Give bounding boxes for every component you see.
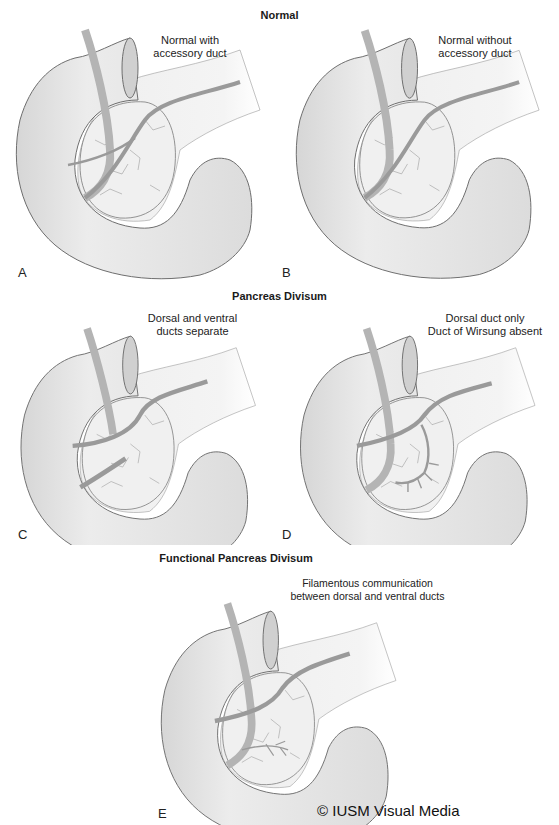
panel-e: Filamentous communication between dorsal… bbox=[140, 565, 440, 825]
panel-label-e: E bbox=[158, 806, 167, 821]
panel-b: Normal without accessory duct B bbox=[280, 0, 559, 285]
caption-e: Filamentous communication between dorsal… bbox=[290, 577, 445, 603]
caption-c: Dorsal and ventral ducts separate bbox=[135, 312, 250, 338]
panel-c: Dorsal and ventral ducts separate C bbox=[0, 290, 280, 545]
copyright-notice: © IUSM Visual Media bbox=[317, 802, 460, 819]
panel-label-a: A bbox=[18, 265, 27, 280]
section-title-functional-pancreas-divisum: Functional Pancreas Divisum bbox=[96, 552, 376, 564]
caption-d: Dorsal duct only Duct of Wirsung absent bbox=[415, 312, 555, 338]
panel-d: Dorsal duct only Duct of Wirsung absent … bbox=[280, 290, 559, 545]
panel-label-d: D bbox=[282, 527, 291, 542]
panel-a: Normal with accessory duct A bbox=[0, 0, 280, 285]
caption-a: Normal with accessory duct bbox=[140, 34, 240, 60]
caption-b: Normal without accessory duct bbox=[420, 34, 530, 60]
pancreas-diagram-functional-divisum bbox=[140, 565, 440, 825]
panel-label-b: B bbox=[282, 265, 291, 280]
panel-label-c: C bbox=[18, 527, 27, 542]
